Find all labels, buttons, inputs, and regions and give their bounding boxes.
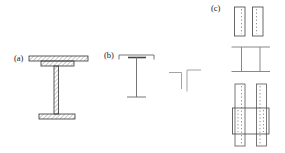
section-c-battened-channels [233, 84, 270, 146]
section-b-back-to-back-angles [169, 70, 201, 92]
section-a-ibeam-with-cover-plate [29, 56, 88, 119]
section-b-tee-outline [119, 55, 154, 97]
right-channel [257, 84, 267, 146]
top-flange [41, 61, 74, 66]
right-angle [187, 70, 201, 92]
cover-plate [29, 56, 88, 61]
bottom-flange [39, 114, 75, 119]
section-c-twin-plates [235, 7, 264, 36]
left-angle [169, 73, 182, 90]
diagram-canvas [0, 0, 285, 153]
left-channel [235, 84, 245, 146]
cross-sections-figure: (a) (b) (c) [0, 0, 285, 153]
section-c-channels-toe-to-toe [232, 47, 271, 72]
web [54, 66, 59, 114]
right-plate [253, 7, 264, 36]
left-plate [235, 7, 246, 36]
